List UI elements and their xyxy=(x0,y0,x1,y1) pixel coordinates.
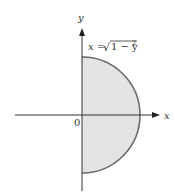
origin-label: 0 xyxy=(74,117,80,128)
x-axis-arrow-icon xyxy=(152,112,160,118)
region-diagram: y x 0 x = √ 1 − y 2 xyxy=(0,0,175,196)
curve-equation-label: x = √ 1 − y 2 xyxy=(88,39,138,54)
y-axis-label: y xyxy=(77,12,84,23)
x-axis-label: x xyxy=(164,110,170,121)
radical-sign: √ xyxy=(103,41,111,54)
equation-exponent: 2 xyxy=(132,39,136,47)
y-axis-arrow-icon xyxy=(79,28,85,36)
